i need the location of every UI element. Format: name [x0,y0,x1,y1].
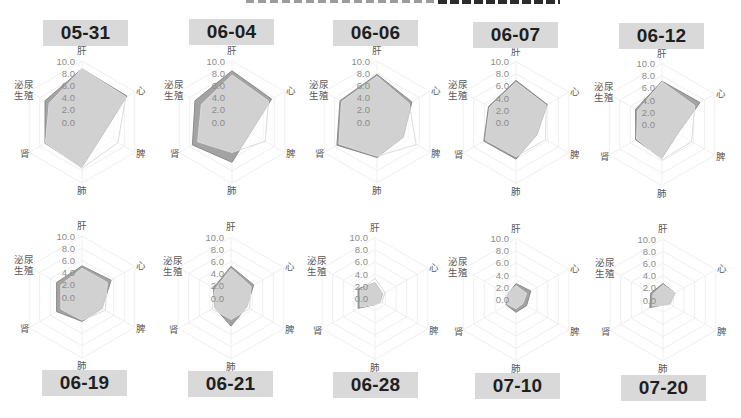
tick-label: 10.0 [491,233,510,244]
tick-label: 8.0 [211,244,224,255]
axis-label: 泌尿生殖 [14,253,34,275]
radar-chart: 0.02.04.06.08.010.0肝心脾肺肾泌尿生殖 [163,221,295,372]
tick-label: 4.0 [357,92,370,103]
tick-label: 6.0 [211,256,224,267]
tick-label: 10.0 [350,232,369,243]
axis-label: 肝 [370,221,380,232]
axis-label: 脾 [431,148,441,159]
axis-label: 肺 [77,360,87,371]
axis-label: 心 [570,85,580,96]
tick-label: 8.0 [496,68,509,79]
tick-label: 0.0 [62,292,75,303]
axis-label: 肾 [315,148,325,159]
axis-label: 心 [717,263,727,274]
tick-label: 4.0 [642,95,655,106]
axis-label: 肝 [77,220,87,231]
axis-label: 脾 [716,150,726,161]
radar-chart: 0.02.04.06.08.010.0肝心脾肺肾泌尿生殖 [594,47,726,198]
tick-label: 2.0 [642,107,655,118]
axis-label: 泌尿生殖 [595,256,615,278]
axis-label: 泌尿生殖 [309,78,329,100]
radar-chart: 0.02.04.06.08.010.0肝心脾肺肾泌尿生殖 [14,220,146,371]
date-label: 06-21 [188,371,273,397]
tick-label: 8.0 [496,245,509,256]
radar-chart: 0.02.04.06.08.010.0肝心脾肺肾泌尿生殖 [164,45,296,196]
axis-label: 心 [429,261,439,272]
axis-label: 肾 [313,324,323,335]
tick-label: 4.0 [643,270,656,281]
axis-label: 泌尿生殖 [163,254,183,276]
axis-label: 肝 [226,221,236,232]
axis-label: 肝 [511,222,521,233]
radar-chart: 0.02.04.06.08.010.0肝心脾肺肾泌尿生殖 [448,45,580,196]
date-label: 06-28 [333,372,418,398]
tick-label: 6.0 [357,80,370,91]
tick-label: 0.0 [642,119,655,130]
tick-label: 6.0 [212,80,225,91]
axis-label: 肝 [77,45,87,56]
tick-label: 4.0 [211,268,224,279]
axis-label: 肺 [658,363,668,374]
tick-label: 2.0 [211,280,224,291]
tick-label: 10.0 [352,56,371,67]
axis-label: 脾 [429,324,439,335]
date-label: 07-20 [621,375,706,401]
axis-label: 心 [570,262,580,273]
axis-label: 肾 [601,326,611,337]
series-light-area [485,82,546,157]
axis-label: 肾 [20,148,30,159]
axis-label: 肺 [227,185,237,196]
tick-label: 6.0 [642,82,655,93]
tick-label: 10.0 [638,234,657,245]
radar-charts-canvas: 0.02.04.06.08.010.0肝心脾肺肾泌尿生殖 0.02.04.06.… [0,0,741,418]
tick-label: 6.0 [62,80,75,91]
axis-label: 肺 [657,187,667,198]
radar-chart: 0.02.04.06.08.010.0肝心脾肺肾泌尿生殖 [448,222,580,373]
tick-label: 0.0 [212,117,225,128]
tick-label: 2.0 [212,104,225,115]
axis-label: 泌尿生殖 [14,78,34,100]
axis-label: 肾 [170,148,180,159]
tick-label: 2.0 [496,282,509,293]
axis-label: 肺 [77,185,87,196]
tick-label: 10.0 [491,56,510,67]
tick-label: 0.0 [496,117,509,128]
tick-label: 0.0 [211,293,224,304]
axis-label: 泌尿生殖 [448,256,468,278]
axis-label: 心 [136,85,146,96]
tick-label: 4.0 [496,93,509,104]
axis-label: 脾 [570,325,580,336]
axis-label: 脾 [285,324,295,335]
date-label: 06-12 [619,23,704,49]
axis-label: 肺 [511,185,521,196]
date-label: 06-07 [473,22,558,48]
tick-label: 4.0 [212,92,225,103]
axis-label: 心 [285,261,295,272]
axis-label: 脾 [286,148,296,159]
tick-label: 4.0 [62,92,75,103]
axis-label: 泌尿生殖 [307,255,327,277]
axis-label: 肝 [227,45,237,56]
tick-label: 10.0 [207,56,226,67]
axis-label: 心 [286,85,296,96]
tick-label: 0.0 [643,295,656,306]
tick-label: 8.0 [355,244,368,255]
date-label: 06-06 [333,20,418,46]
tick-label: 10.0 [637,58,656,69]
tick-label: 0.0 [62,117,75,128]
tick-label: 2.0 [62,279,75,290]
tick-label: 2.0 [355,281,368,292]
tick-label: 6.0 [643,258,656,269]
axis-label: 脾 [136,148,146,159]
date-label: 07-10 [475,373,560,399]
series-light-area [46,69,126,168]
tick-label: 8.0 [643,246,656,257]
axis-label: 肺 [226,361,236,372]
axis-label: 肾 [600,150,610,161]
axis-label: 心 [431,85,441,96]
tick-label: 6.0 [496,257,509,268]
radar-chart: 0.02.04.06.08.010.0肝心脾肺肾泌尿生殖 [307,221,439,372]
tick-label: 6.0 [355,256,368,267]
tick-label: 8.0 [62,243,75,254]
tick-label: 0.0 [355,293,368,304]
